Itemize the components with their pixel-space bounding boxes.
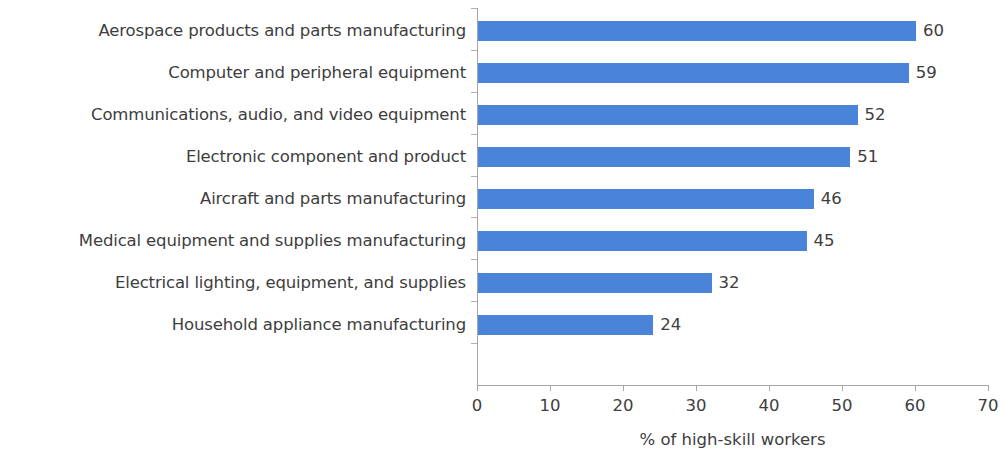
y-axis-tick	[471, 134, 477, 135]
category-axis-labels: Aerospace products and parts manufacturi…	[0, 8, 466, 385]
bar	[478, 147, 850, 167]
x-axis-tick-label: 60	[885, 396, 945, 416]
bar-chart: Aerospace products and parts manufacturi…	[0, 0, 1003, 461]
category-label: Electrical lighting, equipment, and supp…	[0, 273, 466, 293]
bar-value-label: 60	[923, 21, 944, 41]
category-label: Computer and peripheral equipment	[0, 63, 466, 83]
x-axis-tick-label: 70	[958, 396, 1003, 416]
x-axis-tick-label: 40	[739, 396, 799, 416]
y-axis-tick	[471, 176, 477, 177]
bar-value-label: 51	[857, 147, 878, 167]
y-axis-tick	[471, 8, 477, 9]
y-axis-tick	[471, 259, 477, 260]
bar	[478, 231, 807, 251]
x-axis-line	[477, 385, 988, 386]
bar-value-label: 59	[916, 63, 937, 83]
bar	[478, 21, 916, 41]
x-axis-tick	[477, 385, 478, 391]
plot-area: 6059525146453224010203040506070	[477, 8, 988, 385]
category-label: Communications, audio, and video equipme…	[0, 105, 466, 125]
x-axis-tick-label: 10	[520, 396, 580, 416]
bar	[478, 105, 858, 125]
category-label: Medical equipment and supplies manufactu…	[0, 231, 466, 251]
bar	[478, 63, 909, 83]
bar-value-label: 32	[719, 273, 740, 293]
x-axis-tick	[623, 385, 624, 391]
x-axis-tick	[988, 385, 989, 391]
x-axis-tick-label: 30	[666, 396, 726, 416]
bar-value-label: 45	[814, 231, 835, 251]
y-axis-tick	[471, 217, 477, 218]
category-label: Aerospace products and parts manufacturi…	[0, 21, 466, 41]
x-axis-tick-label: 50	[812, 396, 872, 416]
bar-value-label: 52	[865, 105, 886, 125]
x-axis-tick	[769, 385, 770, 391]
x-axis-tick-label: 0	[447, 396, 507, 416]
category-label: Electronic component and product	[0, 147, 466, 167]
category-label: Aircraft and parts manufacturing	[0, 189, 466, 209]
y-axis-tick	[471, 92, 477, 93]
y-axis-tick	[471, 301, 477, 302]
category-label: Household appliance manufacturing	[0, 315, 466, 335]
bar	[478, 273, 712, 293]
bar-value-label: 24	[660, 315, 681, 335]
x-axis-tick	[550, 385, 551, 391]
x-axis-tick	[696, 385, 697, 391]
x-axis-tick-label: 20	[593, 396, 653, 416]
bar	[478, 315, 653, 335]
x-axis-tick	[915, 385, 916, 391]
x-axis-title: % of high-skill workers	[477, 430, 988, 450]
bar	[478, 189, 814, 209]
x-axis-tick	[842, 385, 843, 391]
y-axis-tick	[471, 50, 477, 51]
bar-value-label: 46	[821, 189, 842, 209]
y-axis-tick	[471, 343, 477, 344]
